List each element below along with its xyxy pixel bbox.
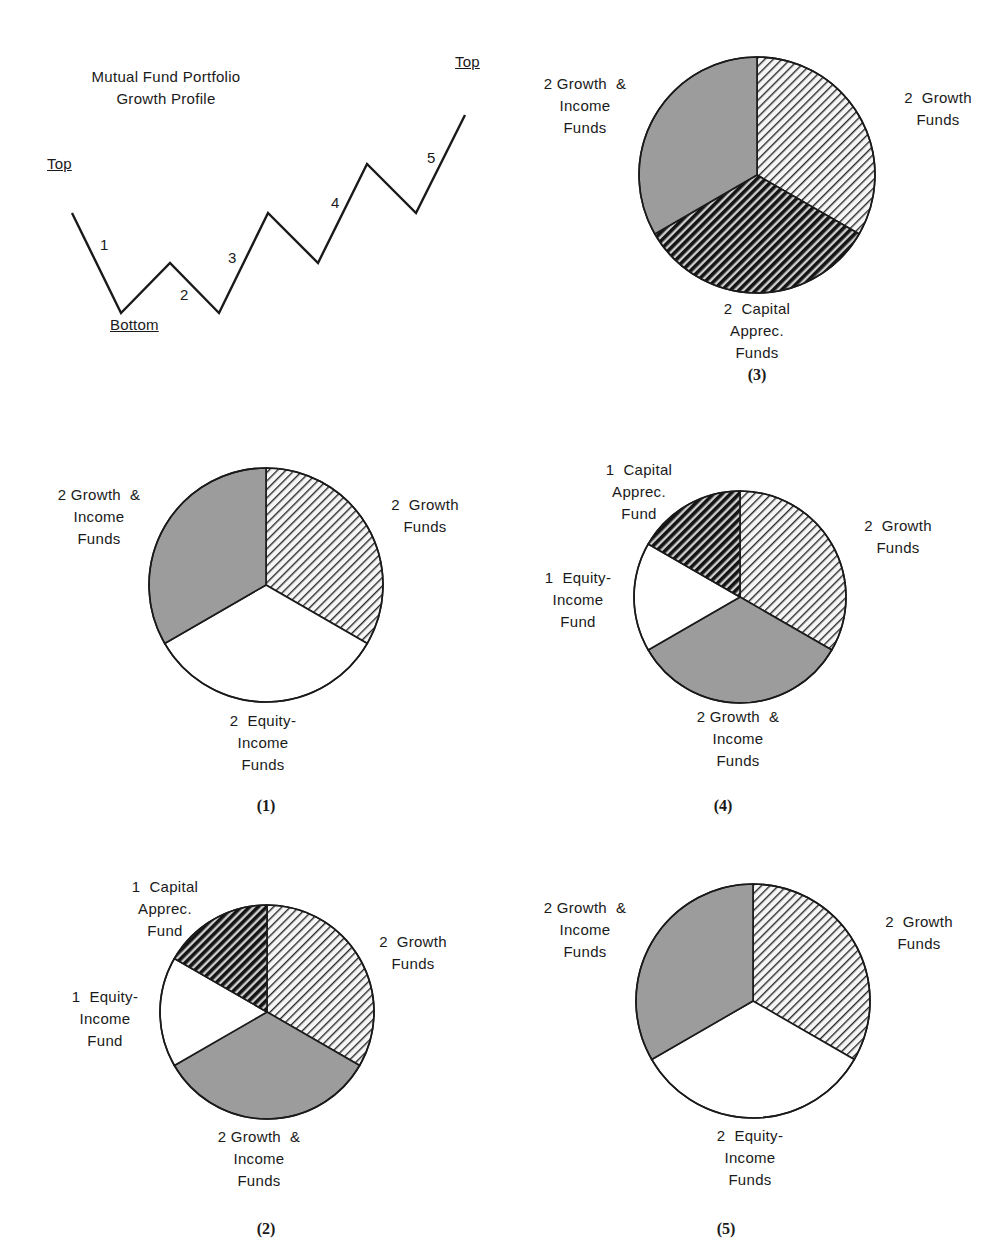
pie-slice-label: 2 Growth &IncomeFunds [683,706,793,772]
segment-label: 3 [228,249,236,266]
label-line: 2 Growth [869,911,969,933]
label-line: Apprec. [115,898,215,920]
pie-3 [639,57,875,293]
pie-slice-label: 2 GrowthFunds [848,515,948,559]
label-line: 2 Equity- [213,710,313,732]
label-line: 1 Equity- [528,567,628,589]
line-chart-title: Mutual Fund Portfolio Growth Profile [66,66,266,110]
pie-slice-label: 2 Growth &IncomeFunds [204,1126,314,1192]
label-line: Fund [589,503,689,525]
title-line-1: Mutual Fund Portfolio [66,66,266,88]
segment-label: 5 [427,149,435,166]
pie-caption: (4) [693,797,753,815]
segment-label: 4 [331,194,339,211]
label-line: Apprec. [589,481,689,503]
label-line: Income [55,1008,155,1030]
pie-caption: (1) [236,797,296,815]
pie-slice-label: 2 GrowthFunds [363,931,463,975]
label-line: Income [204,1148,314,1170]
pie-caption: (3) [727,366,787,384]
label-line: Funds [707,342,807,364]
label-line: 1 Capital [115,876,215,898]
growth-profile-line-chart [72,115,465,313]
label-line: 1 Capital [589,459,689,481]
pie-slice-label: 1 CapitalApprec.Fund [589,459,689,525]
label-line: 2 Equity- [700,1125,800,1147]
label-line: 2 Growth [375,494,475,516]
label-line: 2 Growth & [683,706,793,728]
pie-slice-label: 2 Growth &IncomeFunds [530,897,640,963]
label-line: Funds [869,933,969,955]
label-line: Funds [44,528,154,550]
label-line: Fund [55,1030,155,1052]
pie-1 [149,468,383,702]
top-marker: Top [47,155,72,172]
label-line: Funds [888,109,988,131]
pie-slice-label: 2 GrowthFunds [869,911,969,955]
pie-charts [149,57,875,1119]
label-line: 2 Growth & [530,73,640,95]
pie-slice-label: 1 Equity-IncomeFund [528,567,628,633]
segment-label: 1 [100,236,108,253]
label-line: 2 Growth [848,515,948,537]
label-line: Fund [115,920,215,942]
label-line: Income [530,919,640,941]
label-line: Funds [683,750,793,772]
label-line: Income [700,1147,800,1169]
label-line: Income [528,589,628,611]
bottom-marker: Bottom [110,316,159,333]
pie-slice-label: 1 CapitalApprec.Fund [115,876,215,942]
pie-slice-label: 2 CapitalApprec.Funds [707,298,807,364]
pie-slice-label: 2 Growth &IncomeFunds [44,484,154,550]
label-line: Funds [530,941,640,963]
label-line: Income [683,728,793,750]
figure-canvas [0,0,1002,1252]
pie-slice-label: 2 Equity-IncomeFunds [700,1125,800,1191]
segment-label: 2 [180,286,188,303]
growth-profile-line [72,115,465,313]
label-line: 2 Growth [888,87,988,109]
label-line: Funds [848,537,948,559]
pie-slice-label: 2 GrowthFunds [888,87,988,131]
label-line: 2 Capital [707,298,807,320]
label-line: 1 Equity- [55,986,155,1008]
label-line: Income [44,506,154,528]
title-line-2: Growth Profile [66,88,266,110]
pie-caption: (5) [696,1220,756,1238]
label-line: Income [213,732,313,754]
label-line: Apprec. [707,320,807,342]
label-line: Funds [375,516,475,538]
pie-caption: (2) [236,1220,296,1238]
label-line: 2 Growth & [204,1126,314,1148]
pie-5 [636,884,870,1118]
pie-slice-label: 1 Equity-IncomeFund [55,986,155,1052]
pie-slice-label: 2 Equity-IncomeFunds [213,710,313,776]
label-line: Funds [530,117,640,139]
label-line: Funds [213,754,313,776]
label-line: 2 Growth & [530,897,640,919]
pie-slice-label: 2 GrowthFunds [375,494,475,538]
pie-slice-label: 2 Growth &IncomeFunds [530,73,640,139]
label-line: Funds [363,953,463,975]
top-marker: Top [455,53,480,70]
label-line: Income [530,95,640,117]
label-line: Fund [528,611,628,633]
label-line: Funds [204,1170,314,1192]
label-line: 2 Growth [363,931,463,953]
label-line: 2 Growth & [44,484,154,506]
label-line: Funds [700,1169,800,1191]
